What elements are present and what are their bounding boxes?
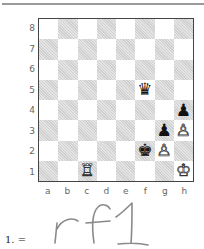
- square-a2[interactable]: [39, 141, 58, 161]
- square-g7[interactable]: [155, 39, 174, 59]
- rank-label: 7: [27, 44, 37, 54]
- square-g8[interactable]: [155, 19, 174, 39]
- square-c8[interactable]: [78, 19, 97, 39]
- square-d5[interactable]: [97, 80, 116, 100]
- square-b6[interactable]: [58, 60, 77, 80]
- square-f4[interactable]: [135, 100, 154, 120]
- square-c7[interactable]: [78, 39, 97, 59]
- rank-label: 1: [27, 167, 37, 177]
- square-a1[interactable]: [39, 161, 58, 181]
- black-king-icon[interactable]: ♚: [137, 142, 152, 159]
- square-c2[interactable]: [78, 141, 97, 161]
- square-a5[interactable]: [39, 80, 58, 100]
- square-d4[interactable]: [97, 100, 116, 120]
- square-b2[interactable]: [58, 141, 77, 161]
- rank-label: 3: [27, 126, 37, 136]
- square-f6[interactable]: [135, 60, 154, 80]
- square-f1[interactable]: [135, 161, 154, 181]
- chess-board[interactable]: ♛♟♟♙♚♙♖♔: [38, 18, 194, 182]
- square-a3[interactable]: [39, 120, 58, 140]
- square-g5[interactable]: [155, 80, 174, 100]
- rank-label: 6: [27, 64, 37, 74]
- top-rule: [2, 3, 204, 5]
- square-a6[interactable]: [39, 60, 58, 80]
- square-b3[interactable]: [58, 120, 77, 140]
- black-pawn-icon[interactable]: ♟: [176, 102, 191, 119]
- square-a7[interactable]: [39, 39, 58, 59]
- square-d6[interactable]: [97, 60, 116, 80]
- square-b5[interactable]: [58, 80, 77, 100]
- square-e1[interactable]: [116, 161, 135, 181]
- square-f7[interactable]: [135, 39, 154, 59]
- square-h2[interactable]: [174, 141, 193, 161]
- square-a4[interactable]: [39, 100, 58, 120]
- square-h8[interactable]: [174, 19, 193, 39]
- square-d8[interactable]: [97, 19, 116, 39]
- square-d3[interactable]: [97, 120, 116, 140]
- square-g3[interactable]: ♟: [155, 120, 174, 140]
- square-b1[interactable]: [58, 161, 77, 181]
- white-rook-icon[interactable]: ♖: [80, 162, 95, 179]
- square-g1[interactable]: [155, 161, 174, 181]
- square-c1[interactable]: ♖: [78, 161, 97, 181]
- file-label: c: [77, 186, 97, 196]
- rank-label: 2: [27, 146, 37, 156]
- rank-label: 4: [27, 105, 37, 115]
- file-label: f: [136, 186, 156, 196]
- square-f8[interactable]: [135, 19, 154, 39]
- black-queen-icon[interactable]: ♛: [137, 81, 152, 98]
- square-c6[interactable]: [78, 60, 97, 80]
- file-label: b: [58, 186, 78, 196]
- white-pawn-icon[interactable]: ♙: [157, 142, 172, 159]
- square-h7[interactable]: [174, 39, 193, 59]
- square-g4[interactable]: [155, 100, 174, 120]
- square-h3[interactable]: ♙: [174, 120, 193, 140]
- file-label: a: [38, 186, 58, 196]
- square-a8[interactable]: [39, 19, 58, 39]
- file-label: g: [155, 186, 175, 196]
- square-e5[interactable]: [116, 80, 135, 100]
- square-c5[interactable]: [78, 80, 97, 100]
- square-h5[interactable]: [174, 80, 193, 100]
- square-b8[interactable]: [58, 19, 77, 39]
- square-e2[interactable]: [116, 141, 135, 161]
- square-f5[interactable]: ♛: [135, 80, 154, 100]
- file-label: e: [116, 186, 136, 196]
- square-g6[interactable]: [155, 60, 174, 80]
- file-label: h: [175, 186, 195, 196]
- black-pawn-icon[interactable]: ♟: [157, 122, 172, 139]
- square-d7[interactable]: [97, 39, 116, 59]
- square-h1[interactable]: ♔: [174, 161, 193, 181]
- square-g2[interactable]: ♙: [155, 141, 174, 161]
- file-label: d: [97, 186, 117, 196]
- square-h6[interactable]: [174, 60, 193, 80]
- move-number: 1. =: [5, 234, 26, 245]
- square-h4[interactable]: ♟: [174, 100, 193, 120]
- white-pawn-icon[interactable]: ♙: [176, 122, 191, 139]
- square-f2[interactable]: ♚: [135, 141, 154, 161]
- rank-label: 5: [27, 85, 37, 95]
- square-d2[interactable]: [97, 141, 116, 161]
- square-e4[interactable]: [116, 100, 135, 120]
- square-e8[interactable]: [116, 19, 135, 39]
- square-d1[interactable]: [97, 161, 116, 181]
- square-e3[interactable]: [116, 120, 135, 140]
- square-e7[interactable]: [116, 39, 135, 59]
- rank-label: 8: [27, 23, 37, 33]
- handwritten-answer: rf1: [52, 199, 152, 247]
- square-b7[interactable]: [58, 39, 77, 59]
- square-f3[interactable]: [135, 120, 154, 140]
- square-b4[interactable]: [58, 100, 77, 120]
- square-c4[interactable]: [78, 100, 97, 120]
- square-e6[interactable]: [116, 60, 135, 80]
- square-c3[interactable]: [78, 120, 97, 140]
- white-king-icon[interactable]: ♔: [176, 162, 191, 179]
